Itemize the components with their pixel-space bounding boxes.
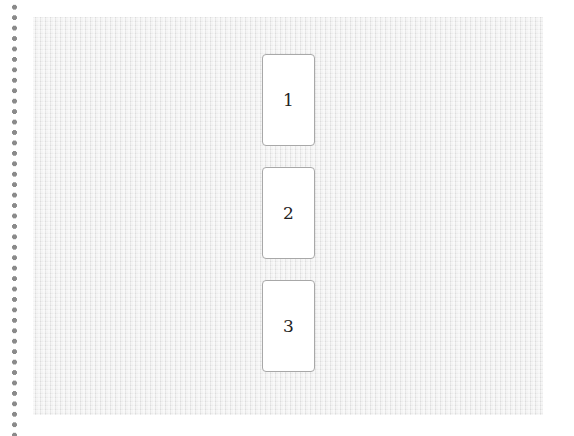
card-label: 2: [283, 203, 294, 223]
card-2[interactable]: 2: [262, 167, 315, 259]
card-label: 3: [283, 316, 294, 336]
game-board: 1 2 3: [33, 17, 543, 415]
card-3[interactable]: 3: [262, 280, 315, 372]
card-label: 1: [283, 90, 294, 110]
binder-dots-edge: [11, 2, 18, 436]
card-1[interactable]: 1: [262, 54, 315, 146]
